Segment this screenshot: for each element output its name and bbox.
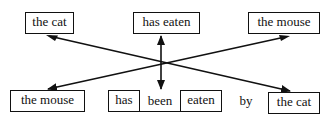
arrowhead-verb-top: [157, 35, 165, 45]
bottom-label-been: been: [148, 93, 173, 108]
bottom-segment-been: been: [139, 90, 181, 112]
bottom-label-the-cat: the cat: [277, 94, 311, 109]
bottom-label-the-mouse: the mouse: [21, 92, 74, 107]
arrowhead-the-cat-top: [46, 35, 58, 41]
top-label-has-eaten: has eaten: [142, 14, 190, 29]
top-label-the-cat: the cat: [32, 14, 66, 29]
bottom-box-the-cat: the cat: [268, 92, 320, 114]
top-label-the-mouse: the mouse: [257, 14, 310, 29]
bottom-box-has: has: [108, 90, 140, 112]
bottom-box-the-mouse: the mouse: [10, 90, 85, 112]
arrowhead-the-mouse-top: [279, 35, 290, 41]
bottom-box-eaten: eaten: [180, 90, 222, 112]
top-box-the-mouse: the mouse: [248, 12, 320, 34]
bottom-label-eaten: eaten: [187, 92, 214, 107]
top-box-the-cat: the cat: [25, 12, 74, 34]
by-text: by: [240, 93, 253, 108]
bottom-label-by: by: [236, 92, 256, 114]
bottom-label-has: has: [115, 92, 132, 107]
active-passive-diagram: the cat has eaten the mouse the mouse ha…: [0, 0, 335, 120]
top-box-has-eaten: has eaten: [133, 12, 200, 34]
